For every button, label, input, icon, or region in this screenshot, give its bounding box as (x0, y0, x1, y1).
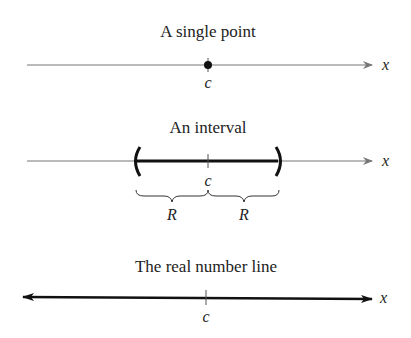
convergence-diagram: A single point c x An interval c R R x T… (0, 0, 411, 338)
panel-title: A single point (160, 22, 256, 41)
right-radius-label: R (238, 206, 249, 223)
panel-title: An interval (170, 118, 247, 137)
real-number-line (23, 297, 372, 299)
center-label: c (204, 172, 211, 189)
panel-title: The real number line (135, 257, 277, 276)
center-label: c (204, 74, 211, 91)
left-brace (136, 190, 208, 202)
right-brace (208, 190, 279, 202)
left-radius-label: R (166, 206, 177, 223)
axis-label: x (381, 152, 389, 169)
point-dot (204, 61, 212, 69)
panel-interval: An interval c R R x (27, 118, 389, 223)
center-label: c (202, 308, 209, 325)
axis-label: x (379, 289, 387, 306)
panel-single-point: A single point c x (27, 22, 389, 91)
panel-real-line: The real number line c x (23, 257, 387, 325)
axis-label: x (381, 56, 389, 73)
